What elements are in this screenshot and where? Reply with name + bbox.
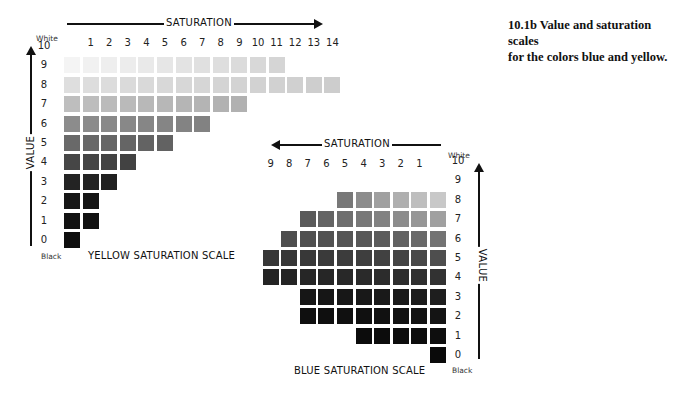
color-swatch [281, 231, 297, 247]
color-swatch [101, 116, 117, 132]
value-tick: 5 [450, 252, 466, 263]
saturation-tick: 12 [287, 37, 303, 48]
value-tick: 6 [450, 233, 466, 244]
color-swatch [430, 250, 446, 266]
saturation-tick: 7 [194, 37, 210, 48]
color-swatch [337, 231, 353, 247]
value-tick: 1 [450, 330, 466, 341]
color-swatch [411, 308, 427, 324]
color-swatch [374, 269, 390, 285]
color-swatch [120, 96, 136, 112]
color-swatch [157, 135, 173, 151]
color-swatch [176, 116, 192, 132]
color-swatch [411, 250, 427, 266]
color-swatch [411, 269, 427, 285]
color-swatch [374, 308, 390, 324]
color-swatch [300, 289, 316, 305]
value-tick: 10 [450, 155, 466, 166]
color-swatch [64, 174, 80, 190]
color-swatch [138, 135, 154, 151]
color-swatch [411, 192, 427, 208]
color-swatch [120, 77, 136, 93]
color-swatch [176, 57, 192, 73]
saturation-tick: 1 [411, 158, 427, 169]
color-swatch [101, 135, 117, 151]
color-swatch [356, 211, 372, 227]
value-tick: 9 [36, 59, 52, 70]
value-tick: 8 [450, 194, 466, 205]
color-swatch [120, 57, 136, 73]
caption-line-2: for the colors blue and yellow. [508, 49, 684, 65]
color-swatch [337, 308, 353, 324]
blue-scale-title: BLUE SATURATION SCALE [294, 365, 425, 376]
color-swatch [318, 250, 334, 266]
color-swatch [157, 77, 173, 93]
color-swatch [64, 213, 80, 229]
color-swatch [83, 116, 99, 132]
saturation-tick: 5 [157, 37, 173, 48]
color-swatch [374, 192, 390, 208]
yellow-black-label: Black [41, 252, 61, 261]
color-swatch [194, 96, 210, 112]
color-swatch [194, 57, 210, 73]
color-swatch [411, 289, 427, 305]
color-swatch [374, 211, 390, 227]
saturation-tick: 8 [281, 158, 297, 169]
color-swatch [393, 308, 409, 324]
color-swatch [430, 289, 446, 305]
saturation-tick: 6 [318, 158, 334, 169]
color-swatch [269, 57, 285, 73]
color-swatch [430, 328, 446, 344]
color-swatch [138, 116, 154, 132]
color-swatch [337, 211, 353, 227]
value-tick: 4 [36, 156, 52, 167]
saturation-tick: 3 [374, 158, 390, 169]
color-swatch [231, 57, 247, 73]
color-swatch [411, 211, 427, 227]
color-swatch [300, 211, 316, 227]
color-swatch [356, 328, 372, 344]
yellow-saturation-label: SATURATION [164, 17, 234, 28]
color-swatch [83, 57, 99, 73]
saturation-tick: 13 [306, 37, 322, 48]
color-swatch [269, 77, 285, 93]
saturation-tick: 6 [176, 37, 192, 48]
color-swatch [101, 154, 117, 170]
color-swatch [263, 269, 279, 285]
color-swatch [120, 154, 136, 170]
saturation-tick: 2 [101, 37, 117, 48]
color-swatch [83, 96, 99, 112]
color-swatch [120, 135, 136, 151]
color-swatch [318, 211, 334, 227]
value-tick: 1 [36, 215, 52, 226]
saturation-tick: 8 [213, 37, 229, 48]
color-swatch [337, 250, 353, 266]
color-swatch [157, 116, 173, 132]
color-swatch [318, 308, 334, 324]
color-swatch [64, 135, 80, 151]
color-swatch [231, 96, 247, 112]
color-swatch [318, 289, 334, 305]
color-swatch [83, 77, 99, 93]
saturation-tick: 4 [356, 158, 372, 169]
color-swatch [393, 192, 409, 208]
saturation-tick: 2 [393, 158, 409, 169]
saturation-tick: 14 [324, 37, 340, 48]
color-swatch [393, 269, 409, 285]
color-swatch [430, 308, 446, 324]
color-swatch [157, 57, 173, 73]
value-tick: 2 [36, 195, 52, 206]
yellow-scale-title: YELLOW SATURATION SCALE [88, 250, 235, 261]
saturation-tick: 11 [269, 37, 285, 48]
value-tick: 5 [36, 137, 52, 148]
color-swatch [356, 250, 372, 266]
caption-line-1: 10.1b Value and saturation scales [508, 17, 684, 49]
color-swatch [64, 77, 80, 93]
color-swatch [83, 135, 99, 151]
color-swatch [138, 57, 154, 73]
color-swatch [263, 250, 279, 266]
color-swatch [393, 289, 409, 305]
value-tick: 3 [450, 291, 466, 302]
color-swatch [64, 57, 80, 73]
value-tick: 9 [450, 174, 466, 185]
